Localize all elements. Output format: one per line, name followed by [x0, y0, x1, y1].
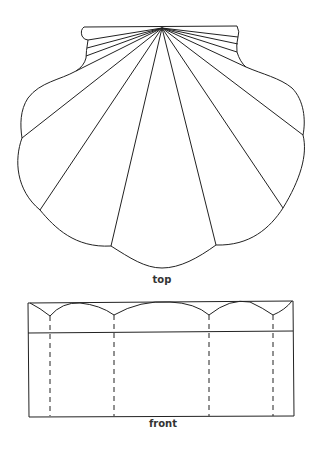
radial-ribs	[22, 28, 303, 246]
scallop-shell-diagram	[0, 0, 317, 450]
front-outline	[28, 301, 294, 417]
hinge-line	[84, 26, 237, 27]
front-scallop-edge	[30, 301, 292, 316]
top-view-label: top	[122, 274, 202, 285]
front-view	[28, 301, 294, 417]
left-ear-outline	[76, 27, 88, 71]
top-view	[18, 26, 305, 268]
front-base-line	[28, 331, 293, 333]
right-ear-outline	[237, 26, 246, 67]
front-view-label: front	[123, 418, 203, 429]
shell-outline	[18, 67, 305, 268]
dashed-guides	[50, 315, 273, 416]
